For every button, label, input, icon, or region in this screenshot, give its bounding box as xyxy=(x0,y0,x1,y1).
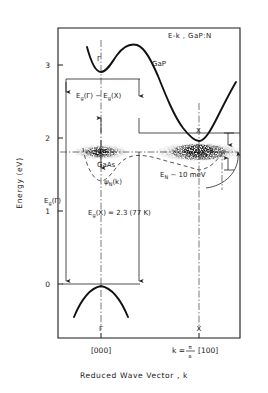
x-tick-symbol-gamma: Γ xyxy=(99,325,103,333)
x-tick-sublabel-x-bracket: [100] xyxy=(198,346,218,355)
x-tick-sublabel-x-prefix: k = xyxy=(172,346,185,355)
figure-title: E-k , GaP:N xyxy=(168,32,212,40)
psi-n-label: ψN(k) xyxy=(104,178,122,187)
band-structure-plot: 3 2 1 0 Energy (eV) E-k , GaP:N xyxy=(0,0,268,393)
y-axis-label: Energy (eV) xyxy=(15,157,24,208)
y-tick-label-3: 3 xyxy=(45,61,50,70)
y-tick-label-1: 1 xyxy=(45,207,50,216)
x-axis-label: Reduced Wave Vector , k xyxy=(80,371,188,380)
fraction-denominator-a: a xyxy=(188,353,191,359)
figure-background xyxy=(0,0,268,393)
x-tick-symbol-x: X xyxy=(197,325,202,333)
x-tick-sublabel-gamma: [000] xyxy=(91,346,111,355)
wavefunction-cloud-x xyxy=(155,143,243,162)
gaas-label: GaAs xyxy=(97,161,116,169)
x-point-label: X xyxy=(196,127,201,135)
y-tick-label-2: 2 xyxy=(45,134,50,143)
gamma-point-label: Γ xyxy=(97,55,101,63)
gap-band-label: GaP xyxy=(152,60,166,68)
y-tick-label-0: 0 xyxy=(45,280,50,289)
band-diagram-figure: 3 2 1 0 Energy (eV) E-k , GaP:N xyxy=(0,0,268,393)
